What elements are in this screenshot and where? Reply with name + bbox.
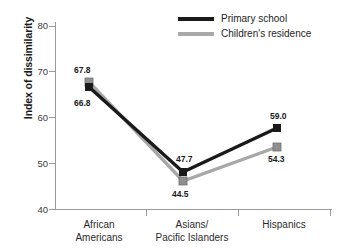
x-category-label-line1: Hispanics: [229, 219, 337, 232]
value-label-primary-african-americans: 66.8: [74, 99, 91, 108]
series-line-childrens-residence: [89, 82, 277, 181]
legend-swatch-childrens-residence: [178, 32, 214, 36]
value-label-residence-african-americans: 67.8: [74, 66, 91, 75]
legend-label-primary-school: Primary school: [221, 13, 287, 24]
marker-childrens-residence-hispanics: [273, 143, 281, 151]
marker-primary-school-hispanics: [273, 124, 281, 132]
chart-legend: Primary school Children's residence: [178, 11, 336, 41]
value-label-primary-asians-pacific-islanders: 47.7: [176, 155, 193, 164]
legend-swatch-primary-school: [178, 17, 214, 21]
chart-container: Index of dissimilarity 80 70 60 50 40 67…: [0, 0, 337, 250]
legend-item-childrens-residence: Children's residence: [178, 26, 336, 41]
marker-primary-school-asians-pacific-islanders: [179, 168, 187, 176]
value-label-primary-hispanics: 59.0: [270, 112, 287, 121]
value-label-residence-hispanics: 54.3: [268, 155, 285, 164]
x-category-label-line2: Pacific Islanders: [137, 232, 247, 245]
legend-item-primary-school: Primary school: [178, 11, 336, 26]
marker-childrens-residence-asians-pacific-islanders: [179, 177, 187, 185]
marker-primary-school-african-americans: [85, 83, 93, 91]
value-label-residence-asians-pacific-islanders: 44.5: [172, 190, 189, 199]
legend-label-childrens-residence: Children's residence: [221, 28, 311, 39]
x-category-label-hispanics: Hispanics: [229, 219, 337, 232]
